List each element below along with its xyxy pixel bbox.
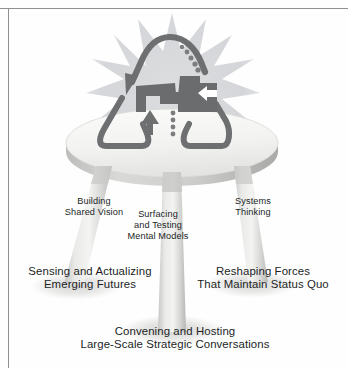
label-line: Large-Scale Strategic Conversations bbox=[62, 338, 288, 351]
label-line: That Maintain Status Quo bbox=[180, 278, 346, 291]
figure-canvas: Building Shared Vision Surfacing and Tes… bbox=[0, 0, 348, 368]
label-line: Systems bbox=[210, 196, 296, 207]
label-systems-thinking: Systems Thinking bbox=[210, 196, 296, 218]
puzzle-connector bbox=[164, 92, 180, 100]
label-reshaping-forces-status-quo: Reshaping Forces That Maintain Status Qu… bbox=[180, 265, 346, 292]
label-line: Convening and Hosting bbox=[62, 325, 288, 338]
label-line: Reshaping Forces bbox=[180, 265, 346, 278]
label-line: Building bbox=[46, 196, 142, 207]
stool-illustration bbox=[0, 0, 348, 368]
stool-leg-center bbox=[158, 172, 186, 332]
label-line: Mental Models bbox=[104, 231, 212, 242]
label-line: Sensing and Actualizing bbox=[6, 265, 174, 278]
label-line: and Testing bbox=[104, 220, 212, 231]
label-line: Surfacing bbox=[104, 209, 212, 220]
label-sensing-actualizing-emerging-futures: Sensing and Actualizing Emerging Futures bbox=[6, 265, 174, 292]
label-surfacing-testing-mental-models: Surfacing and Testing Mental Models bbox=[104, 209, 212, 242]
label-convening-hosting-conversations: Convening and Hosting Large-Scale Strate… bbox=[62, 325, 288, 352]
label-line: Emerging Futures bbox=[6, 278, 174, 291]
label-line: Thinking bbox=[210, 207, 296, 218]
